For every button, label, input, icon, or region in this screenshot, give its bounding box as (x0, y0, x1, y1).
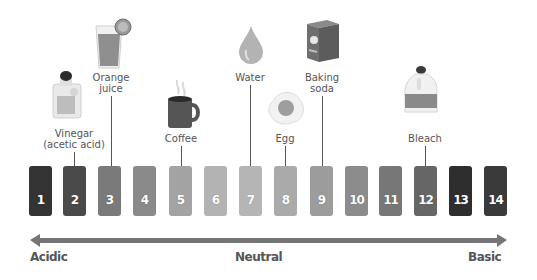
ph-box-4: 4 (133, 166, 156, 216)
leader-line-bleach (425, 146, 426, 166)
leader-line-orange-juice (111, 96, 112, 166)
label-vinegar: Vinegar (acetic acid) (43, 128, 105, 150)
label-coffee: Coffee (165, 133, 197, 144)
ph-value: 2 (71, 193, 78, 207)
ph-box-3: 3 (98, 166, 121, 216)
label-line: juice (93, 83, 130, 94)
vinegar-bottle-icon (50, 70, 86, 120)
ph-value: 11 (383, 193, 398, 207)
ph-value: 1 (37, 193, 44, 207)
ph-value: 13 (453, 193, 468, 207)
ph-box-13: 13 (449, 166, 472, 216)
ph-box-12: 12 (414, 166, 437, 216)
ph-box-9: 9 (310, 166, 333, 216)
ph-value: 12 (418, 193, 433, 207)
ph-value: 3 (106, 193, 113, 207)
label-line: (acetic acid) (43, 139, 105, 150)
label-line: Egg (275, 133, 294, 144)
axis-label-acidic: Acidic (30, 250, 67, 264)
axis-label-basic: Basic (468, 250, 501, 264)
label-water: Water (235, 72, 265, 83)
leader-line-water (250, 85, 251, 166)
label-egg: Egg (275, 133, 294, 144)
leader-line-baking-soda (322, 96, 323, 166)
coffee-mug-icon (165, 78, 201, 130)
label-line: Vinegar (43, 128, 105, 139)
ph-scale-diagram: Vinegar (acetic acid) Orange juice Coffe… (0, 0, 537, 280)
leader-line-egg (285, 146, 286, 166)
bleach-jug-icon (403, 64, 439, 116)
label-bleach: Bleach (408, 133, 442, 144)
label-line: Bleach (408, 133, 442, 144)
label-orange-juice: Orange juice (93, 72, 130, 94)
ph-value: 7 (247, 193, 254, 207)
ph-box-5: 5 (169, 166, 192, 216)
label-line: Orange (93, 72, 130, 83)
fried-egg-icon (266, 88, 306, 128)
ph-value: 10 (349, 193, 364, 207)
label-line: Water (235, 72, 265, 83)
arrow-right-icon (497, 234, 507, 247)
ph-value: 5 (177, 193, 184, 207)
ph-value: 8 (282, 193, 289, 207)
orange-juice-icon (92, 18, 132, 70)
label-line: soda (305, 83, 339, 94)
ph-value: 14 (488, 193, 503, 207)
ph-axis-line (38, 238, 498, 243)
ph-box-7: 7 (239, 166, 262, 216)
ph-box-6: 6 (204, 166, 227, 216)
ph-value: 4 (141, 193, 148, 207)
ph-box-11: 11 (379, 166, 402, 216)
leader-line-coffee (181, 146, 182, 166)
arrow-left-icon (30, 234, 40, 247)
ph-value: 6 (212, 193, 219, 207)
ph-box-1: 1 (29, 166, 52, 216)
ph-value: 9 (318, 193, 325, 207)
label-baking-soda: Baking soda (305, 72, 339, 94)
ph-box-10: 10 (345, 166, 368, 216)
ph-box-2: 2 (63, 166, 86, 216)
label-line: Coffee (165, 133, 197, 144)
water-drop-icon (236, 24, 266, 66)
axis-label-neutral: Neutral (235, 250, 282, 264)
leader-line-vinegar (74, 152, 75, 166)
baking-soda-box-icon (305, 16, 341, 64)
ph-box-8: 8 (274, 166, 297, 216)
label-line: Baking (305, 72, 339, 83)
ph-box-14: 14 (484, 166, 507, 216)
